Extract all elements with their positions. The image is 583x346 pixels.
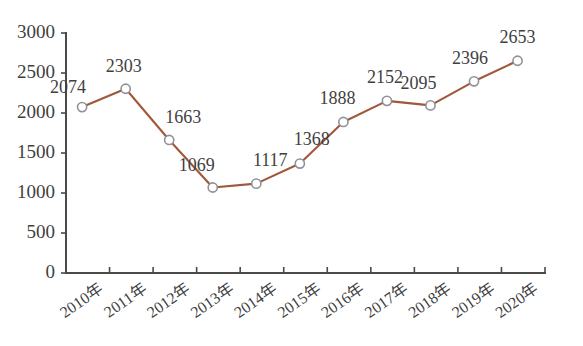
chart-canvas: 050010001500200025003000 2010年2011年2012年… xyxy=(0,0,583,346)
x-axis-tick-label: 2012年 xyxy=(144,280,193,321)
data-value-label: 1663 xyxy=(165,107,201,127)
data-point-marker[interactable] xyxy=(426,101,435,110)
y-axis-tick-label: 1500 xyxy=(17,141,55,162)
y-axis-tick-label: 2000 xyxy=(17,101,55,122)
line-chart: 050010001500200025003000 2010年2011年2012年… xyxy=(0,0,583,346)
data-point-marker[interactable] xyxy=(208,183,217,192)
data-point-marker[interactable] xyxy=(382,96,391,105)
data-point-marker[interactable] xyxy=(121,84,130,93)
data-value-label: 2074 xyxy=(50,77,86,97)
data-value-labels: 2074230316631069111713681888215220952396… xyxy=(50,27,535,176)
x-axis-tick-label: 2020年 xyxy=(492,280,541,321)
x-axis-tick-label: 2010年 xyxy=(57,280,106,321)
data-point-marker[interactable] xyxy=(295,159,304,168)
data-value-label: 2152 xyxy=(367,67,403,87)
data-value-label: 1368 xyxy=(294,129,330,149)
x-axis-tick-label: 2011年 xyxy=(101,280,150,321)
data-point-marker[interactable] xyxy=(252,179,261,188)
y-axis-tick-label: 3000 xyxy=(17,21,55,42)
y-axis-tick-label: 0 xyxy=(46,261,56,282)
y-axis-tick-label: 1000 xyxy=(17,181,55,202)
x-axis-tick-label: 2014年 xyxy=(231,280,280,321)
data-point-marker[interactable] xyxy=(513,56,522,65)
series-group xyxy=(78,56,523,192)
x-axis-tick-label: 2018年 xyxy=(405,280,454,321)
y-axis-tick-labels: 050010001500200025003000 xyxy=(17,21,55,282)
data-point-marker[interactable] xyxy=(165,135,174,144)
data-point-markers xyxy=(78,56,523,192)
data-value-label: 2653 xyxy=(500,27,536,47)
x-axis-tick-label: 2017年 xyxy=(362,280,411,321)
data-point-marker[interactable] xyxy=(469,77,478,86)
data-value-label: 2396 xyxy=(452,48,488,68)
x-axis-tick-labels: 2010年2011年2012年2013年2014年2015年2016年2017年… xyxy=(57,280,542,321)
x-axis-tick-label: 2015年 xyxy=(274,280,323,321)
data-value-label: 1069 xyxy=(179,155,215,175)
data-value-label: 1888 xyxy=(319,88,355,108)
x-axis-tick-label: 2019年 xyxy=(449,280,498,321)
data-value-label: 2095 xyxy=(400,73,436,93)
x-axis-tick-label: 2013年 xyxy=(187,280,236,321)
y-axis-tick-label: 500 xyxy=(27,221,56,242)
x-axis-tick-label: 2016年 xyxy=(318,280,367,321)
data-point-marker[interactable] xyxy=(339,117,348,126)
data-value-label: 1117 xyxy=(253,150,288,170)
data-point-marker[interactable] xyxy=(78,102,87,111)
data-value-label: 2303 xyxy=(106,56,142,76)
